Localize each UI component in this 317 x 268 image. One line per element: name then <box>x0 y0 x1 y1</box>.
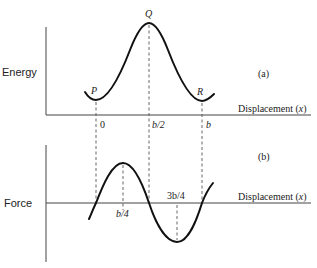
force-axis-label: Force <box>4 197 32 209</box>
guide-lines <box>96 25 202 240</box>
point-q-label: Q <box>145 8 153 19</box>
tick-label-b: b <box>206 119 211 130</box>
panel-b-tag: (b) <box>258 151 270 163</box>
point-r-label: R <box>196 86 203 97</box>
energy-curve <box>85 23 214 101</box>
force-x-axis-label: Displacement (x) <box>238 191 307 203</box>
tick-label-b-quarter: b/4 <box>116 208 129 219</box>
tick-label-0: 0 <box>100 119 105 130</box>
displacement-label: Displacement ( <box>238 103 299 115</box>
paren-close: ) <box>303 191 306 203</box>
paren-close: ) <box>303 103 306 115</box>
force-panel: Force Displacement (x) (b) b/4 3b/4 <box>4 145 311 262</box>
tick-label-b-half: b/2 <box>152 119 165 130</box>
energy-panel: Energy Displacement (x) (a) P Q R <box>2 8 311 115</box>
tick-label-3b-quarter: 3b/4 <box>167 190 185 201</box>
energy-force-diagram: Energy Displacement (x) (a) P Q R 0 b/2 … <box>0 0 317 268</box>
panel-a-tag: (a) <box>258 68 269 80</box>
displacement-label: Displacement ( <box>238 191 299 203</box>
energy-x-axis-label: Displacement (x) <box>238 103 307 115</box>
energy-axis-label: Energy <box>2 66 37 78</box>
point-p-label: P <box>90 85 97 96</box>
